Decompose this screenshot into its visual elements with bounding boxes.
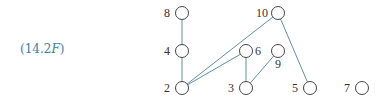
node-circle	[240, 82, 253, 95]
node-3: 3	[228, 81, 253, 95]
node-label: 8	[164, 6, 170, 20]
node-circle	[356, 82, 369, 95]
node-circle	[176, 82, 189, 95]
node-5: 5	[292, 81, 317, 95]
node-10: 10	[256, 6, 285, 20]
node-circle	[304, 82, 317, 95]
node-label: 10	[256, 6, 268, 20]
node-label: 3	[228, 81, 234, 95]
node-6: 6	[240, 44, 262, 58]
hasse-diagram: 8421069357	[0, 0, 383, 101]
nodes: 8421069357	[164, 6, 369, 95]
node-label: 5	[292, 81, 298, 95]
node-circle	[176, 7, 189, 20]
node-circle	[272, 7, 285, 20]
node-circle	[176, 45, 189, 58]
node-9: 9	[272, 45, 285, 72]
node-label: 4	[164, 44, 170, 58]
node-4: 4	[164, 44, 189, 58]
edge-3-9	[250, 56, 273, 83]
node-7: 7	[344, 81, 369, 95]
node-label: 6	[255, 44, 261, 58]
node-circle	[272, 45, 285, 58]
node-2: 2	[164, 81, 189, 95]
node-circle	[240, 45, 253, 58]
node-8: 8	[164, 6, 189, 20]
node-label: 9	[275, 57, 281, 71]
node-label: 7	[344, 81, 350, 95]
node-label: 2	[164, 81, 170, 95]
